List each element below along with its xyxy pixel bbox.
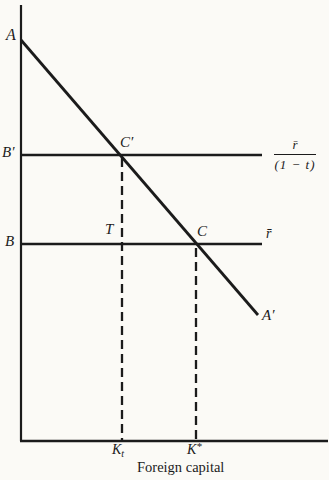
label-K-t-sub: t <box>121 448 124 459</box>
fraction-denominator: (1 − t) <box>274 155 316 171</box>
label-C: C <box>197 224 207 239</box>
x-axis-title: Foreign capital <box>137 460 224 475</box>
label-r-over-1-minus-t: r̄ (1 − t) <box>274 138 316 171</box>
label-A: A <box>6 27 16 43</box>
diagram-lines <box>0 0 329 480</box>
economics-diagram: A B′ B C′ T C A′ r̄ (1 − t) r̄ Kt K* For… <box>0 0 329 480</box>
label-B: B <box>5 234 14 249</box>
label-C-prime: C′ <box>120 135 133 150</box>
schedule-line-AA <box>21 40 258 315</box>
label-K-star-sup: * <box>196 440 202 452</box>
label-K-t: Kt <box>112 443 124 459</box>
label-K-star: K* <box>187 441 202 457</box>
label-B-prime: B′ <box>2 145 14 160</box>
label-K-t-base: K <box>112 442 121 457</box>
label-r-bar: r̄ <box>266 227 271 241</box>
fraction-numerator: r̄ <box>274 138 316 155</box>
label-T: T <box>105 222 113 237</box>
label-A-prime: A′ <box>262 308 274 323</box>
label-K-star-base: K <box>187 442 196 457</box>
